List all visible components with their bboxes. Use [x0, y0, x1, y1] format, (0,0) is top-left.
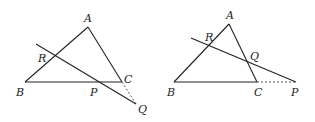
right-label-c: C: [254, 86, 263, 99]
left-side-ab: [25, 27, 88, 82]
right-transversal: [191, 38, 296, 82]
left-label-b: B: [15, 86, 24, 99]
right-label-b: B: [166, 86, 175, 99]
left-side-ac: [88, 27, 122, 82]
left-label-a: A: [83, 12, 92, 25]
left-label-q: Q: [138, 103, 147, 116]
left-label-r: R: [37, 52, 46, 65]
left-label-c: C: [124, 73, 133, 86]
right-side-ab: [174, 24, 229, 82]
left-transversal: [36, 44, 136, 104]
right-label-q: Q: [250, 50, 259, 63]
right-label-r: R: [204, 31, 213, 44]
right-label-a: A: [225, 9, 234, 22]
right-label-p: P: [290, 86, 299, 99]
diagram-canvas: A B C R P Q A B C R Q P: [0, 0, 315, 122]
left-figure: A B C R P Q: [15, 12, 147, 116]
right-figure: A B C R Q P: [166, 9, 299, 99]
left-label-p: P: [89, 86, 98, 99]
